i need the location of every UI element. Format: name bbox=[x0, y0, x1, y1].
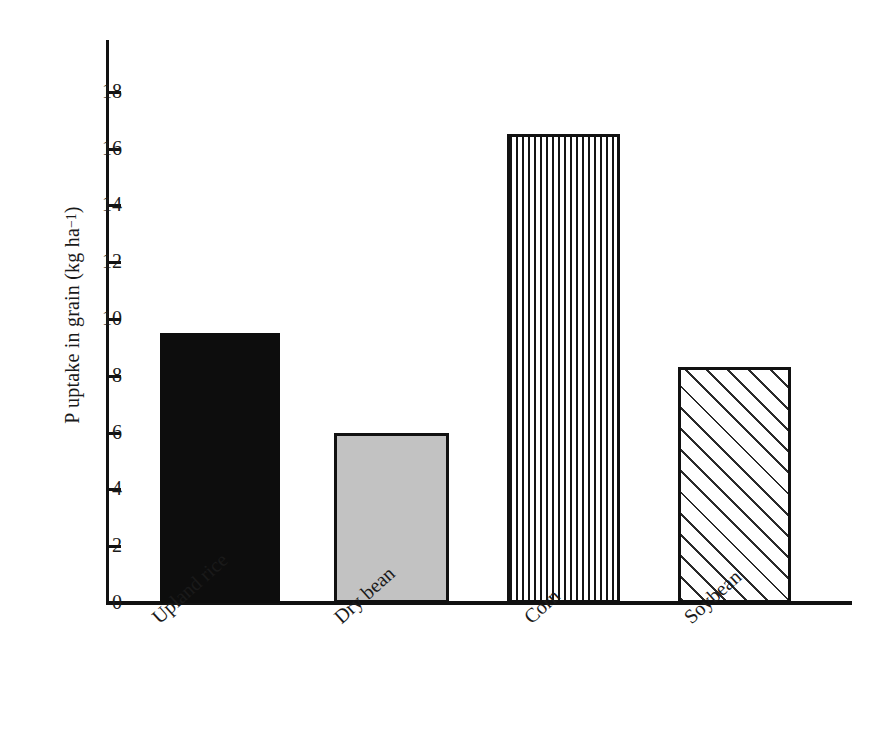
bar-chart-figure: P uptake in grain (kg ha−1) 024681012141… bbox=[0, 0, 892, 732]
bar-corn bbox=[507, 134, 620, 603]
